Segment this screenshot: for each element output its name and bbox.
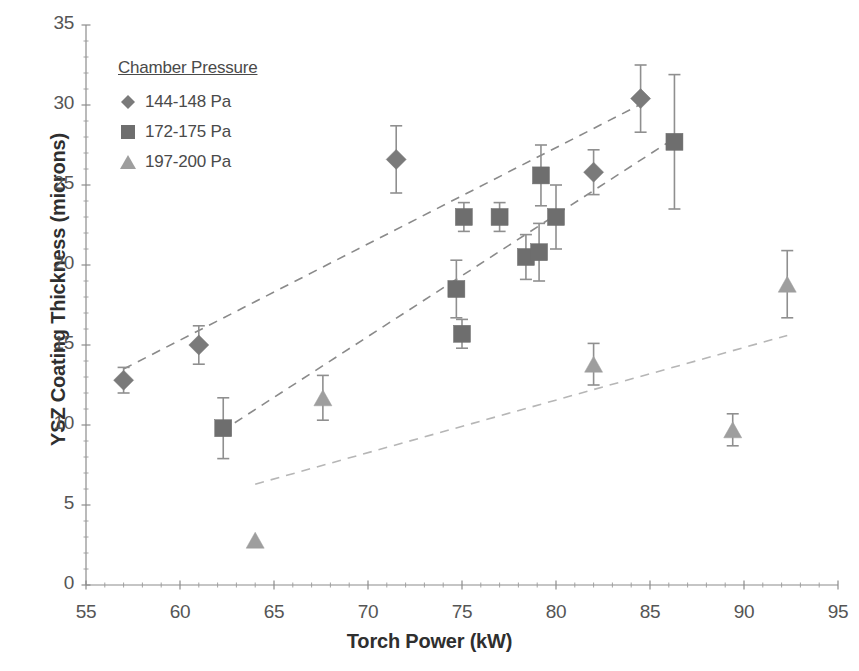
triangle-marker-icon	[118, 152, 138, 172]
chart-figure: YSZ Coating Thickness (microns) Torch Po…	[0, 0, 859, 671]
legend-entry-label: 172-175 Pa	[145, 122, 231, 142]
legend: Chamber Pressure 144-148 Pa172-175 Pa197…	[118, 58, 257, 177]
legend-entry[interactable]: 197-200 Pa	[118, 147, 257, 177]
legend-title: Chamber Pressure	[118, 58, 257, 78]
legend-entry[interactable]: 172-175 Pa	[118, 117, 257, 147]
legend-entries: 144-148 Pa172-175 Pa197-200 Pa	[118, 87, 257, 177]
legend-entry-label: 144-148 Pa	[145, 92, 231, 112]
diamond-marker-icon	[118, 92, 138, 112]
legend-entry[interactable]: 144-148 Pa	[118, 87, 257, 117]
square-marker-icon	[118, 122, 138, 142]
legend-entry-label: 197-200 Pa	[145, 152, 231, 172]
